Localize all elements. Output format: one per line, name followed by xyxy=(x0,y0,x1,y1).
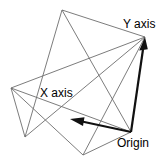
x-axis-label: X axis xyxy=(40,87,73,99)
polygon-chord-apex-to-origin xyxy=(62,10,131,132)
y-axis-arrow xyxy=(131,37,148,132)
polygon-chord-left-to-ytip xyxy=(11,37,145,88)
polygon-outline-1 xyxy=(11,10,145,155)
y-axis-label: Y axis xyxy=(123,18,155,30)
polygon-group xyxy=(11,10,145,155)
origin-label: Origin xyxy=(117,137,149,149)
x-axis-arrow xyxy=(70,117,131,132)
diagram-canvas: Y axis X axis Origin xyxy=(0,0,166,163)
x-axis-arrowhead xyxy=(70,117,85,126)
